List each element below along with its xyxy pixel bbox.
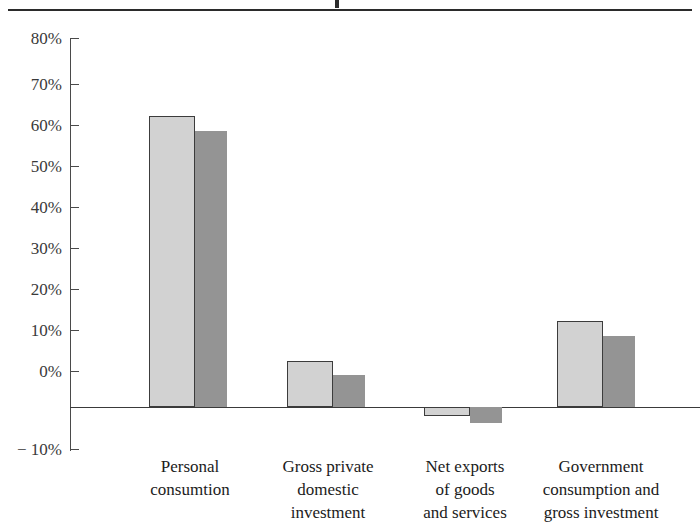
bar-light-gross-private-domestic-investment	[287, 361, 333, 407]
y-tick-label-8: 0%	[0, 363, 62, 380]
bar-dark-personal-consumtion	[195, 131, 227, 407]
x-category-label-3: Government consumption and gross investm…	[508, 455, 694, 524]
bar-dark-net-exports-of-goods-and-services	[470, 407, 502, 423]
y-tick-0	[70, 38, 79, 39]
zero-baseline	[70, 407, 700, 408]
y-tick-label-9: − 10%	[0, 441, 62, 458]
y-tick-9	[70, 449, 79, 450]
y-tick-4	[70, 207, 79, 208]
y-axis-line	[70, 38, 71, 451]
y-tick-label-3: 50%	[0, 158, 62, 175]
y-tick-3	[70, 166, 79, 167]
y-tick-1	[70, 84, 79, 85]
y-tick-label-5: 30%	[0, 240, 62, 257]
bar-light-net-exports-of-goods-and-services	[424, 407, 470, 416]
bar-dark-gross-private-domestic-investment	[333, 375, 365, 407]
bar-light-personal-consumtion	[149, 116, 195, 407]
y-tick-7	[70, 330, 79, 331]
y-tick-6	[70, 289, 79, 290]
bar-light-government-consumption-and-gross-investment	[557, 321, 603, 407]
y-tick-8	[70, 371, 79, 372]
x-category-label-0: Personal consumtion	[110, 455, 270, 501]
y-tick-label-1: 70%	[0, 76, 62, 93]
y-tick-label-4: 40%	[0, 199, 62, 216]
y-tick-label-7: 10%	[0, 322, 62, 339]
y-tick-label-0: 80%	[0, 30, 62, 47]
bar-dark-government-consumption-and-gross-investment	[603, 336, 635, 407]
y-tick-2	[70, 125, 79, 126]
y-tick-label-6: 20%	[0, 281, 62, 298]
x-category-label-1: Gross private domestic investment	[248, 455, 408, 524]
y-tick-5	[70, 248, 79, 249]
y-tick-label-2: 60%	[0, 117, 62, 134]
